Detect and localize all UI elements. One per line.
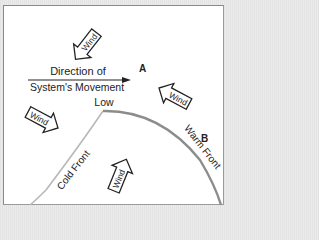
movement-label-line2: System's Movement [30,81,124,93]
wind-arrow-northeast: Wind [103,155,136,195]
wind-arrow-northwest: Wind [154,78,194,113]
point-a-label: A [139,63,146,74]
weather-front-diagram: Direction of System's Movement A B Low C… [0,0,246,222]
wind-arrow-southeast: Wind [23,102,63,137]
wind-arrow-southwest: Wind [67,26,105,66]
low-pressure-label: Low [94,96,114,108]
movement-label-line1: Direction of [50,65,107,77]
